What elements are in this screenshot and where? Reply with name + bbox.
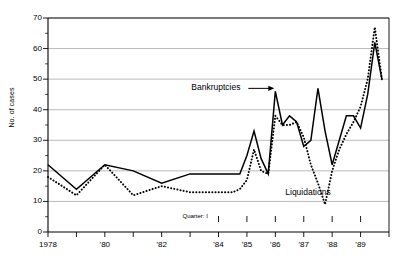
- x-tick-label: '82: [147, 240, 177, 249]
- y-tick-label: 10: [20, 196, 42, 205]
- x-tick-label: '85: [232, 240, 262, 249]
- line-chart: [0, 0, 401, 262]
- y-tick-label: 70: [20, 13, 42, 22]
- data-series-layer: [48, 27, 382, 204]
- y-tick-label: 50: [20, 74, 42, 83]
- quarter-marker-label: Quarter: I: [183, 213, 208, 219]
- series-label-bankruptcies: Bankruptcies: [191, 82, 240, 92]
- x-tick-label: '88: [317, 240, 347, 249]
- series-line-bankruptcies: [48, 42, 382, 189]
- x-tick-label: '89: [346, 240, 376, 249]
- bankruptcies-arrow: [248, 86, 274, 91]
- x-tick-label: '80: [90, 240, 120, 249]
- series-line-liquidations: [48, 27, 382, 204]
- x-axis-ticks: [48, 232, 389, 237]
- y-tick-label: 60: [20, 44, 42, 53]
- y-tick-label: 30: [20, 135, 42, 144]
- x-tick-label: '87: [289, 240, 319, 249]
- chart-container: No. of cases 010203040506070 1978'80'82'…: [0, 0, 401, 262]
- y-axis-title: No. of cases: [8, 73, 15, 143]
- x-tick-label: '86: [260, 240, 290, 249]
- series-label-liquidations: Liquidations: [285, 187, 330, 197]
- x-tick-label: '84: [204, 240, 234, 249]
- plot-frame: [48, 18, 389, 232]
- y-tick-label: 20: [20, 166, 42, 175]
- x-tick-label: 1978: [33, 240, 63, 249]
- y-axis-ticks: [43, 18, 48, 232]
- y-tick-label: 40: [20, 105, 42, 114]
- y-tick-label: 0: [20, 227, 42, 236]
- quarter-tick-marks: [219, 216, 361, 222]
